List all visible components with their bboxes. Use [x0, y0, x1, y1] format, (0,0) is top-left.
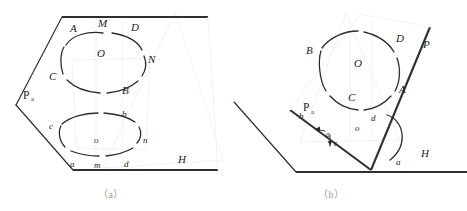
label-M-upper: M	[97, 17, 108, 29]
upper-ellipse-arcs	[61, 33, 146, 94]
label-C-circle-b: C	[348, 91, 356, 103]
label-C-upper: C	[49, 70, 57, 82]
label-P-figure-b: P	[422, 38, 430, 50]
label-H-figure-b: H	[420, 147, 430, 159]
plane-b-top-right-ghost	[360, 14, 430, 27]
caption-figure-a: （a）	[98, 186, 124, 201]
label-H-figure-a: H	[177, 153, 187, 165]
figure-a-svg: A M D N B C O c b n d m a o P	[0, 0, 467, 211]
label-B-circle-b: B	[306, 44, 313, 56]
label-D-circle-b: D	[395, 32, 404, 44]
label-P-a-subscript: a	[31, 95, 35, 103]
label-d-lower: d	[124, 159, 129, 169]
label-A-circle-b: A	[398, 83, 406, 95]
circle-b-arcs	[319, 31, 399, 110]
label-d-proj-b: d	[371, 113, 376, 123]
label-P-trace-b: P	[303, 101, 309, 113]
plane-a-left-lower-edge	[16, 105, 73, 170]
label-O-upper: O	[97, 47, 105, 59]
plane-label-Pa-figure-a: P a	[23, 89, 35, 103]
label-o-proj-b: o	[355, 123, 360, 133]
label-A-upper: A	[69, 22, 77, 34]
scan-artifacts-a	[72, 12, 223, 170]
label-arrow-c: c	[334, 139, 338, 148]
arrow-a-marker: a	[315, 127, 330, 140]
label-o-lower: o	[94, 135, 99, 145]
label-P-a: P	[23, 89, 29, 101]
label-D-upper: D	[130, 21, 139, 33]
label-arrow-a: a	[326, 130, 330, 139]
label-B-upper: B	[122, 84, 129, 96]
label-O-circle-b: O	[354, 57, 362, 69]
label-b-lower: b	[122, 109, 127, 119]
dihedral-angle-arc: a	[387, 115, 402, 167]
plane-a-right-edge	[208, 17, 218, 170]
plane-label-Pa-figure-b: P a	[303, 101, 315, 116]
caption-figure-b: （b）	[318, 186, 345, 201]
label-N-upper: N	[147, 53, 156, 65]
plane-b-left-wedge-lower	[234, 102, 296, 172]
diagram-page: A M D N B C O c b n d m a o P	[0, 0, 467, 211]
plane-b-left-wedge-ghost	[228, 96, 234, 102]
label-P-trace-b-subscript: a	[311, 108, 315, 116]
label-a-lower: a	[70, 159, 75, 169]
label-angle-alpha: a	[396, 157, 401, 167]
label-c-lower: c	[49, 121, 53, 131]
scan-artifacts-b	[300, 14, 400, 142]
label-m-lower: m	[94, 160, 101, 170]
label-n-lower: n	[143, 135, 148, 145]
